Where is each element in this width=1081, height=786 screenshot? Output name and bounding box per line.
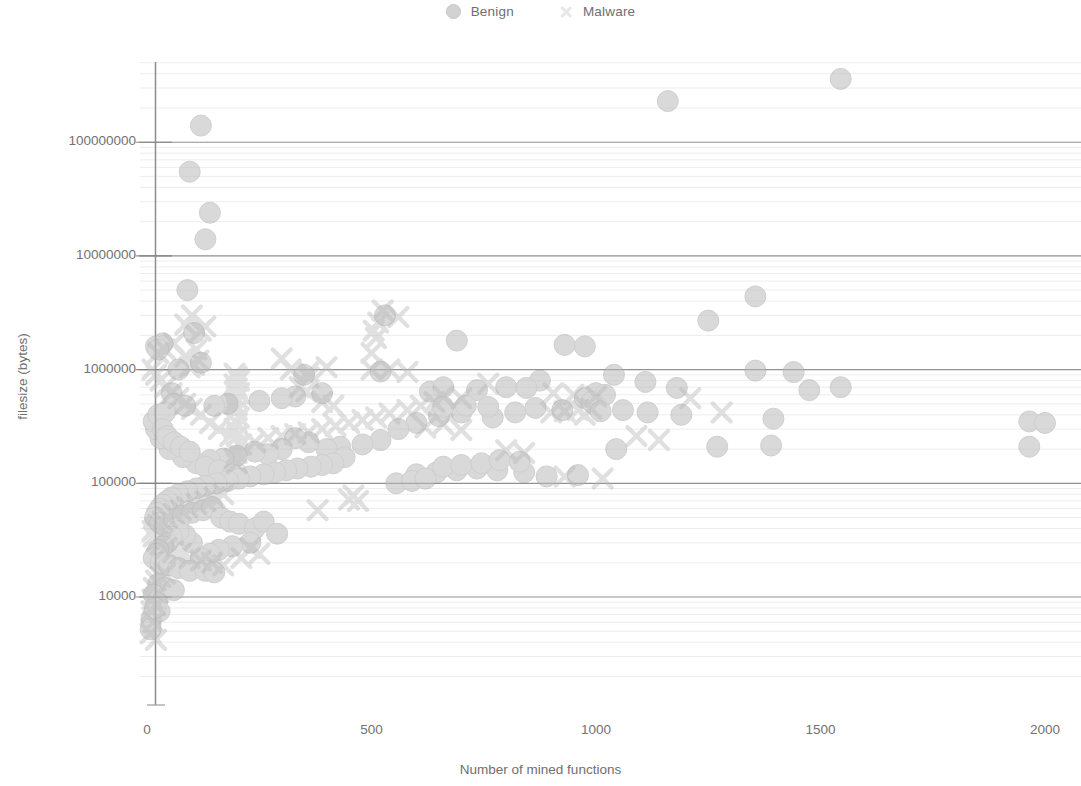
circle-marker-icon bbox=[763, 408, 784, 429]
circle-marker-icon bbox=[606, 439, 627, 460]
cross-marker-icon bbox=[594, 470, 612, 488]
circle-marker-icon bbox=[204, 562, 225, 583]
y-tick-label: 100000 bbox=[91, 474, 136, 489]
circle-marker-icon bbox=[745, 286, 766, 307]
circle-marker-icon bbox=[433, 396, 454, 417]
circle-marker-icon bbox=[175, 395, 196, 416]
circle-marker-icon bbox=[415, 468, 436, 489]
scatter-plot-figure: Benign Malware 1000010000010000001000000… bbox=[0, 0, 1081, 786]
circle-marker-icon bbox=[451, 455, 472, 476]
circle-marker-icon bbox=[516, 377, 537, 398]
circle-marker-icon bbox=[190, 352, 211, 373]
circle-marker-icon bbox=[195, 229, 216, 250]
cross-marker-icon bbox=[309, 501, 327, 519]
cross-marker-icon bbox=[452, 421, 470, 439]
circle-marker-icon bbox=[574, 336, 595, 357]
circle-marker-icon bbox=[249, 390, 270, 411]
y-tick-label: 10000 bbox=[98, 588, 136, 603]
circle-marker-icon bbox=[168, 359, 189, 380]
x-tick-label: 1000 bbox=[556, 722, 636, 737]
y-axis-title: filesize (bytes) bbox=[15, 297, 30, 457]
x-tick-label: 0 bbox=[107, 722, 187, 737]
circle-marker-icon bbox=[1019, 436, 1040, 457]
circle-marker-icon bbox=[244, 441, 265, 462]
cross-marker-icon bbox=[318, 358, 336, 376]
y-tick-label: 100000000 bbox=[68, 133, 136, 148]
circle-marker-icon bbox=[671, 404, 692, 425]
x-tick-label: 500 bbox=[332, 722, 412, 737]
circle-marker-icon bbox=[267, 523, 288, 544]
circle-marker-icon bbox=[184, 323, 205, 344]
circle-marker-icon bbox=[471, 453, 492, 474]
circle-marker-icon bbox=[745, 360, 766, 381]
circle-marker-icon bbox=[370, 361, 391, 382]
plot-canvas bbox=[0, 0, 1081, 786]
circle-marker-icon bbox=[199, 202, 220, 223]
circle-marker-icon bbox=[612, 400, 633, 421]
circle-marker-icon bbox=[179, 441, 200, 462]
circle-marker-icon bbox=[433, 377, 454, 398]
circle-marker-icon bbox=[271, 388, 292, 409]
circle-marker-icon bbox=[637, 402, 658, 423]
circle-marker-icon bbox=[478, 396, 499, 417]
circle-marker-icon bbox=[783, 362, 804, 383]
circle-marker-icon bbox=[1035, 412, 1056, 433]
circle-marker-icon bbox=[635, 371, 656, 392]
cross-marker-icon bbox=[363, 344, 381, 362]
circle-marker-icon bbox=[536, 466, 557, 487]
circle-marker-icon bbox=[294, 364, 315, 385]
circle-marker-icon bbox=[761, 435, 782, 456]
circle-marker-icon bbox=[375, 305, 396, 326]
circle-marker-icon bbox=[148, 339, 169, 360]
x-tick-label: 1500 bbox=[781, 722, 861, 737]
circle-marker-icon bbox=[370, 430, 391, 451]
circle-marker-icon bbox=[496, 377, 517, 398]
circle-marker-icon bbox=[666, 377, 687, 398]
circle-marker-icon bbox=[204, 395, 225, 416]
circle-marker-icon bbox=[455, 395, 476, 416]
cross-marker-icon bbox=[713, 403, 731, 421]
circle-marker-icon bbox=[145, 598, 166, 619]
circle-marker-icon bbox=[799, 380, 820, 401]
cross-marker-icon bbox=[627, 427, 645, 445]
cross-marker-icon bbox=[650, 431, 668, 449]
x-axis-title: Number of mined functions bbox=[0, 762, 1081, 777]
circle-marker-icon bbox=[388, 419, 409, 440]
circle-marker-icon bbox=[525, 397, 546, 418]
circle-marker-icon bbox=[489, 450, 510, 471]
circle-marker-icon bbox=[177, 280, 198, 301]
circle-marker-icon bbox=[552, 400, 573, 421]
circle-marker-icon bbox=[509, 451, 530, 472]
circle-marker-icon bbox=[657, 91, 678, 112]
circle-marker-icon bbox=[707, 436, 728, 457]
y-tick-label: 1000000 bbox=[83, 361, 136, 376]
circle-marker-icon bbox=[830, 68, 851, 89]
circle-marker-icon bbox=[604, 364, 625, 385]
circle-marker-icon bbox=[590, 401, 611, 422]
circle-marker-icon bbox=[190, 115, 211, 136]
plot-area bbox=[0, 0, 1081, 786]
circle-marker-icon bbox=[179, 161, 200, 182]
cross-marker-icon bbox=[398, 363, 416, 381]
circle-marker-icon bbox=[352, 434, 373, 455]
circle-marker-icon bbox=[240, 532, 261, 553]
circle-marker-icon bbox=[568, 465, 589, 486]
y-tick-label: 10000000 bbox=[76, 247, 136, 262]
circle-marker-icon bbox=[312, 383, 333, 404]
circle-marker-icon bbox=[140, 619, 161, 640]
circle-marker-icon bbox=[554, 334, 575, 355]
circle-marker-icon bbox=[505, 402, 526, 423]
circle-marker-icon bbox=[830, 377, 851, 398]
circle-marker-icon bbox=[446, 330, 467, 351]
circle-marker-icon bbox=[698, 310, 719, 331]
x-tick-label: 2000 bbox=[1005, 722, 1081, 737]
